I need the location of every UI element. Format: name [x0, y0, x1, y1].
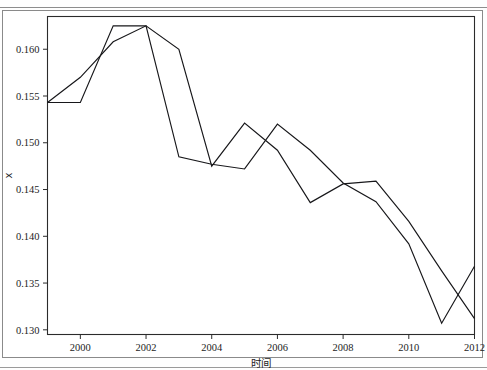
y-tick-label: 0.155 [16, 91, 40, 102]
plot-area-border [48, 17, 475, 335]
x-tick-label: 2004 [201, 342, 223, 353]
x-axis-tick-labels: 2000200220042006200820102012 [70, 342, 485, 353]
y-tick-label: 0.130 [16, 325, 40, 336]
y-tick-label: 0.145 [16, 184, 40, 195]
data-series-line [48, 26, 475, 319]
x-axis-title: 时间 [251, 357, 271, 369]
x-tick-label: 2008 [333, 342, 354, 353]
y-tick-label: 0.160 [16, 44, 40, 55]
x-tick-label: 2012 [464, 342, 485, 353]
y-tick-label: 0.150 [16, 137, 40, 148]
y-axis-ticks [43, 49, 48, 330]
data-series-line [48, 26, 475, 323]
y-axis-title: x [3, 172, 14, 178]
y-tick-label: 0.140 [16, 231, 40, 242]
x-axis-ticks [80, 335, 474, 340]
y-axis-tick-labels: 0.1300.1350.1400.1450.1500.1550.160 [16, 44, 40, 336]
data-series-group [48, 26, 475, 323]
x-tick-label: 2010 [398, 342, 419, 353]
x-tick-label: 2002 [136, 342, 157, 353]
chart-svg: 0.1300.1350.1400.1450.1500.1550.160 2000… [0, 0, 487, 370]
x-tick-label: 2006 [267, 342, 288, 353]
line-chart: 0.1300.1350.1400.1450.1500.1550.160 2000… [0, 0, 487, 370]
x-tick-label: 2000 [70, 342, 91, 353]
y-tick-label: 0.135 [16, 278, 40, 289]
scanned-page: 0.1300.1350.1400.1450.1500.1550.160 2000… [0, 0, 487, 370]
